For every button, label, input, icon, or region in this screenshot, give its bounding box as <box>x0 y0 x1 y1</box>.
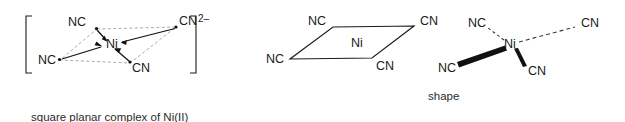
middle-ligand-top-right: CN <box>420 14 438 28</box>
middle-ligand-top-left: NC <box>308 14 326 28</box>
left-ligand-bottom-right: CN <box>132 61 150 75</box>
dashed-bond-right <box>519 27 575 42</box>
right-ligand-lower-left: NC <box>438 61 456 75</box>
right-caption: shape <box>428 89 459 103</box>
right-ligand-upper-left: NC <box>468 16 486 30</box>
left-ligand-top-right: CN <box>179 14 197 28</box>
left-bracket <box>26 16 32 73</box>
left-center-atom: Ni <box>106 37 118 51</box>
right-center-atom: Ni <box>504 37 516 51</box>
middle-ligand-bottom-left: NC <box>266 52 284 66</box>
chemistry-figure: NC CN NC CN Ni 2– NC CN NC CN Ni <box>0 0 625 122</box>
right-ligand-lower-right: CN <box>528 64 546 78</box>
complex-charge: 2– <box>198 13 210 24</box>
middle-ligand-bottom-right: CN <box>376 59 394 73</box>
right-ligand-right: CN <box>581 16 599 30</box>
left-structure-group: NC CN NC CN Ni 2– <box>26 13 210 75</box>
dative-bonds <box>62 29 175 62</box>
left-ligand-bottom-left: NC <box>38 53 56 67</box>
left-caption-line-1: square planar complex of Ni(II) <box>31 110 188 122</box>
left-caption: square planar complex of Ni(II) coordina… <box>31 82 188 122</box>
middle-structure-group: NC CN NC CN Ni <box>266 14 438 73</box>
right-structure-group: NC CN NC CN Ni <box>438 16 599 78</box>
left-ligand-top-left: NC <box>68 15 86 29</box>
dashed-bond-upper-left <box>488 28 504 40</box>
bold-wedge-bond-lower-left <box>457 46 507 68</box>
solid-wedge-bond-lower-right <box>514 48 527 67</box>
middle-center-atom: Ni <box>351 36 363 50</box>
